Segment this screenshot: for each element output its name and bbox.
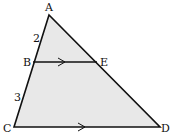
label-c: C bbox=[3, 122, 11, 135]
length-bc: 3 bbox=[14, 91, 21, 104]
label-d: D bbox=[161, 122, 170, 135]
label-b: B bbox=[23, 56, 31, 69]
label-a: A bbox=[44, 1, 54, 14]
length-ab: 2 bbox=[33, 32, 40, 45]
triangle-diagram: A B E C D 2 3 bbox=[0, 0, 173, 140]
label-e: E bbox=[100, 56, 108, 69]
